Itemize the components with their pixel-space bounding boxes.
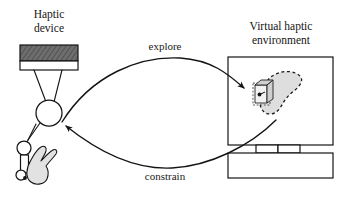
device-secondary-joint [17,141,31,155]
virtual-environment-title-line1: Virtual haptic [250,20,313,33]
explore-arrow [62,58,244,122]
constrain-label: constrain [145,170,186,182]
virtual-environment-title-line2: environment [252,34,311,46]
virtual-cursor [253,80,273,105]
device-link-upper-left [34,70,46,102]
monitor-base [228,153,333,178]
haptic-loop-figure: Haptic device Virtual haptic [0,0,343,200]
haptic-device-title-line2: device [34,22,64,34]
figure-canvas: Haptic device Virtual haptic [0,0,343,200]
device-mount-plate [20,61,78,70]
device-main-joint [36,100,62,126]
device-link-lower-b [26,124,36,144]
device-stylus-tip-point [23,176,27,180]
monitor-stand-right [278,145,300,153]
haptic-device-title-line1: Haptic [34,8,65,21]
haptic-device-assembly [16,45,78,184]
monitor-stand-left [256,145,278,153]
virtual-environment-monitor [228,57,333,178]
device-link-upper-right [54,70,62,102]
explore-label: explore [149,40,182,52]
device-mount-block [20,45,78,61]
operator-hand [27,146,57,184]
